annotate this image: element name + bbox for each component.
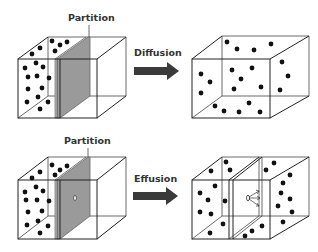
arrow-right-icon [133, 187, 178, 205]
diffusion-before-box: Partition [18, 12, 126, 118]
effusion-escape-icon [247, 190, 261, 206]
diffusion-label: Diffusion [134, 47, 182, 58]
effusion-arrow: Effusion [133, 173, 178, 205]
effusion-label: Effusion [134, 173, 177, 184]
partition-wall [57, 37, 90, 118]
pinhole-icon [74, 195, 77, 200]
diffusion-after-box [192, 36, 309, 118]
effusion-before-box: Partition [18, 135, 126, 239]
diffusion-effusion-diagram: Partition [0, 0, 318, 252]
partition-label-bottom: Partition [64, 135, 111, 146]
effusion-after-box [192, 157, 309, 239]
partition-label-top: Partition [68, 12, 115, 23]
arrow-right-icon [134, 62, 179, 80]
gas-molecules-left [198, 160, 233, 236]
diffusion-arrow: Diffusion [134, 47, 182, 80]
gas-molecules-right [243, 161, 295, 239]
